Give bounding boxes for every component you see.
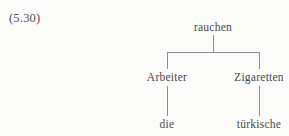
tree-node-left-branch: Arbeiter (147, 71, 187, 83)
example-number-label: (5.30) (9, 11, 40, 26)
tree-node-left-leaf: die (160, 118, 175, 130)
tree-diagram-figure: (5.30) rauchen Arbeiter Zigaretten die t… (0, 0, 289, 136)
tree-node-right-branch: Zigaretten (234, 71, 284, 83)
tree-node-root: rauchen (194, 21, 232, 33)
tree-connector-lines (0, 0, 289, 136)
tree-node-right-leaf: türkische (237, 118, 281, 130)
